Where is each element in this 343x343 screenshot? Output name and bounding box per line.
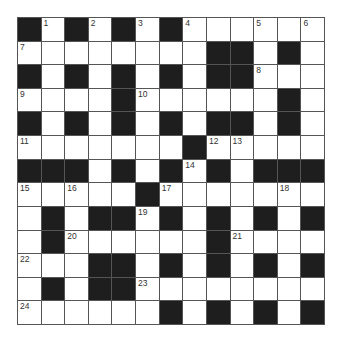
crossword-cell[interactable]: 20 [65,231,88,254]
crossword-cell[interactable] [254,89,277,112]
crossword-cell[interactable] [301,183,324,206]
crossword-cell[interactable] [231,160,254,183]
crossword-cell[interactable] [18,207,41,230]
crossword-cell[interactable] [42,65,65,88]
crossword-cell[interactable] [207,183,230,206]
crossword-cell[interactable] [254,183,277,206]
crossword-cell[interactable] [136,65,159,88]
crossword-cell[interactable] [301,278,324,301]
crossword-cell[interactable] [160,136,183,159]
crossword-cell[interactable] [183,278,206,301]
crossword-cell[interactable] [65,136,88,159]
crossword-cell[interactable] [112,183,135,206]
crossword-cell[interactable] [65,301,88,324]
crossword-cell[interactable]: 19 [136,207,159,230]
crossword-cell[interactable]: 2 [89,18,112,41]
crossword-cell[interactable] [183,231,206,254]
crossword-cell[interactable] [278,301,301,324]
crossword-cell[interactable] [18,278,41,301]
crossword-cell[interactable] [207,89,230,112]
crossword-cell[interactable] [42,301,65,324]
crossword-cell[interactable] [18,231,41,254]
crossword-cell[interactable] [65,42,88,65]
crossword-cell[interactable] [112,231,135,254]
crossword-cell[interactable] [160,42,183,65]
crossword-cell[interactable] [278,278,301,301]
crossword-cell[interactable]: 14 [183,160,206,183]
crossword-cell[interactable] [42,136,65,159]
crossword-cell[interactable] [254,231,277,254]
crossword-cell[interactable]: 17 [160,183,183,206]
crossword-cell[interactable]: 24 [18,301,41,324]
crossword-cell[interactable] [254,278,277,301]
crossword-cell[interactable]: 1 [42,18,65,41]
crossword-cell[interactable] [254,136,277,159]
crossword-cell[interactable] [278,65,301,88]
crossword-cell[interactable] [65,254,88,277]
crossword-cell[interactable]: 21 [231,231,254,254]
crossword-cell[interactable] [89,42,112,65]
crossword-cell[interactable] [231,183,254,206]
crossword-cell[interactable] [278,18,301,41]
crossword-cell[interactable] [207,18,230,41]
crossword-cell[interactable] [231,301,254,324]
crossword-cell[interactable] [112,42,135,65]
crossword-cell[interactable] [42,254,65,277]
crossword-cell[interactable]: 13 [231,136,254,159]
crossword-cell[interactable] [89,301,112,324]
crossword-cell[interactable] [136,254,159,277]
crossword-cell[interactable] [65,89,88,112]
crossword-cell[interactable] [231,278,254,301]
crossword-cell[interactable] [278,231,301,254]
crossword-cell[interactable]: 12 [207,136,230,159]
crossword-cell[interactable] [231,18,254,41]
crossword-cell[interactable] [278,207,301,230]
crossword-cell[interactable] [301,42,324,65]
crossword-cell[interactable]: 11 [18,136,41,159]
crossword-cell[interactable] [136,301,159,324]
crossword-cell[interactable]: 3 [136,18,159,41]
crossword-cell[interactable]: 16 [65,183,88,206]
crossword-cell[interactable] [136,160,159,183]
crossword-cell[interactable] [89,112,112,135]
crossword-cell[interactable] [89,89,112,112]
crossword-cell[interactable]: 5 [254,18,277,41]
crossword-cell[interactable]: 9 [18,89,41,112]
crossword-cell[interactable]: 6 [301,18,324,41]
crossword-cell[interactable] [42,89,65,112]
crossword-cell[interactable] [231,89,254,112]
crossword-cell[interactable] [183,42,206,65]
crossword-cell[interactable] [183,301,206,324]
crossword-cell[interactable] [42,183,65,206]
crossword-cell[interactable] [112,136,135,159]
crossword-cell[interactable] [254,112,277,135]
crossword-cell[interactable] [65,207,88,230]
crossword-cell[interactable] [160,231,183,254]
crossword-cell[interactable] [183,207,206,230]
crossword-cell[interactable] [278,254,301,277]
crossword-cell[interactable] [136,231,159,254]
crossword-cell[interactable] [301,89,324,112]
crossword-cell[interactable]: 4 [183,18,206,41]
crossword-cell[interactable]: 22 [18,254,41,277]
crossword-cell[interactable] [42,112,65,135]
crossword-cell[interactable] [183,89,206,112]
crossword-cell[interactable] [278,136,301,159]
crossword-cell[interactable]: 10 [136,89,159,112]
crossword-cell[interactable]: 18 [278,183,301,206]
crossword-cell[interactable] [136,112,159,135]
crossword-cell[interactable] [183,65,206,88]
crossword-cell[interactable]: 8 [254,65,277,88]
crossword-cell[interactable]: 7 [18,42,41,65]
crossword-cell[interactable] [301,112,324,135]
crossword-cell[interactable] [231,254,254,277]
crossword-cell[interactable] [160,278,183,301]
crossword-cell[interactable] [183,112,206,135]
crossword-cell[interactable] [301,231,324,254]
crossword-cell[interactable] [112,301,135,324]
crossword-cell[interactable] [231,207,254,230]
crossword-cell[interactable] [89,183,112,206]
crossword-cell[interactable] [207,278,230,301]
crossword-cell[interactable] [160,89,183,112]
crossword-cell[interactable] [183,183,206,206]
